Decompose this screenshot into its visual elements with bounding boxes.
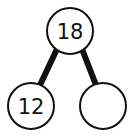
- part-left-value: 12: [18, 95, 45, 119]
- part-right-circle[interactable]: [80, 83, 126, 129]
- connector-right: [82, 49, 96, 85]
- whole-value: 18: [57, 20, 84, 44]
- number-bond-diagram: 18 12: [0, 0, 132, 135]
- part-left-circle: 12: [8, 83, 54, 129]
- whole-circle: 18: [47, 8, 93, 54]
- connector-left: [40, 49, 57, 85]
